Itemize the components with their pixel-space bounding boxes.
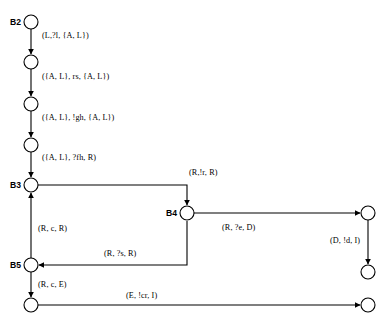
node-n6[interactable]: [24, 298, 38, 312]
edge-label-n2-n3: ({A, L}, !gh, {A, L}): [42, 113, 114, 122]
node-n5[interactable]: [361, 265, 375, 279]
node-b4[interactable]: [180, 206, 194, 220]
node-n2[interactable]: [24, 97, 38, 111]
edge-label-b3-b4: (R,!r, R): [189, 168, 218, 177]
node-b3[interactable]: [24, 178, 38, 192]
node-label-b5: B5: [10, 260, 21, 270]
node-b5[interactable]: [24, 258, 38, 272]
node-label-b3: B3: [10, 180, 21, 190]
edge-label-b4-b5: (R, ?s, R): [104, 249, 136, 258]
edge-label-b5-n6: (R, c, E): [38, 280, 67, 289]
edge-label-n1-n2: ({A, L}, rs, {A, L}): [42, 72, 109, 81]
node-n4[interactable]: [361, 206, 375, 220]
edge-label-n4-n5: (D, !d, I): [330, 236, 360, 245]
edge-b3-b4: [38, 185, 187, 205]
node-label-b4: B4: [166, 208, 177, 218]
edge-label-b4-n4: (R, ?e, D): [222, 223, 255, 232]
node-label-b2: B2: [10, 17, 21, 27]
node-b2[interactable]: [24, 15, 38, 29]
diagram-canvas: B2 B3 B4 B5 (L,?l, {A, L}) ({A, L}, rs, …: [0, 0, 388, 331]
edge-label-n3-b3: ({A, L}, ?fh, R): [42, 153, 96, 162]
edge-label-b5-b3: (R, c, R): [38, 224, 67, 233]
node-n1[interactable]: [24, 55, 38, 69]
node-n7[interactable]: [361, 298, 375, 312]
edge-label-n6-n7: (E, !cr, I): [126, 291, 157, 300]
edge-label-b2-n1: (L,?l, {A, L}): [42, 31, 89, 40]
node-n3[interactable]: [24, 138, 38, 152]
